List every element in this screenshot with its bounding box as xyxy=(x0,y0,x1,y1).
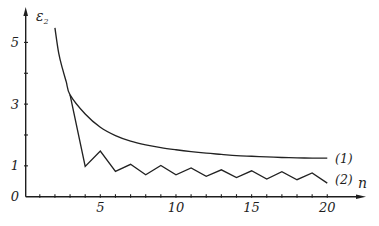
curves xyxy=(55,28,327,183)
x-axis-arrow-icon xyxy=(356,194,366,199)
x-tick-label: 5 xyxy=(96,200,104,215)
x-axis-label: n xyxy=(358,175,367,191)
series-2-label: (2) xyxy=(335,172,353,187)
series-1-label: (1) xyxy=(335,151,353,166)
x-tick-label: 15 xyxy=(243,200,260,215)
y-tick-label: 3 xyxy=(11,97,19,112)
series-1-line xyxy=(55,28,327,158)
tick-labels: 51015200135 xyxy=(11,35,336,215)
y-tick-label: 1 xyxy=(11,158,19,173)
y-tick-label: 5 xyxy=(11,35,19,50)
y-axis-arrow-icon xyxy=(23,7,28,16)
y-tick-label: 0 xyxy=(11,189,19,204)
x-tick-label: 10 xyxy=(168,200,185,215)
series-labels: (1)(2) xyxy=(335,151,353,187)
y-axis-label: ε2 xyxy=(36,8,49,26)
series-2-line xyxy=(70,95,327,183)
chart: 51015200135 (1)(2) ε2 n xyxy=(0,0,379,226)
x-tick-label: 20 xyxy=(318,200,336,215)
